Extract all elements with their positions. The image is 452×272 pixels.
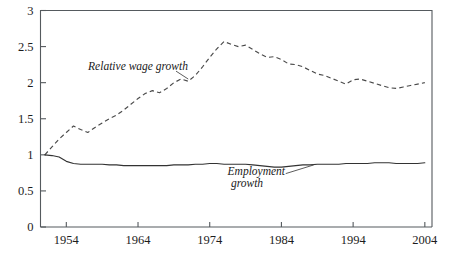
x-tick-label: 1954 <box>54 233 80 247</box>
series-annotation-label: growth <box>231 177 263 190</box>
x-tick-label: 1984 <box>269 233 295 247</box>
y-tick-label: 1 <box>27 148 33 162</box>
y-tick-label: 0 <box>27 220 33 234</box>
x-tick-label: 1964 <box>126 233 152 247</box>
series-annotation-label: Relative wage growth <box>87 60 188 73</box>
y-tick-label: 2 <box>27 76 33 90</box>
y-tick-label: 0.5 <box>18 184 34 198</box>
y-tick-label: 1.5 <box>18 112 34 126</box>
y-tick-label: 2.5 <box>18 40 34 54</box>
chart-background <box>0 0 452 272</box>
line-chart: 00.511.522.53 195419641974198419942004 R… <box>0 0 452 272</box>
y-tick-label: 3 <box>27 4 33 18</box>
x-tick-label: 1974 <box>197 233 223 247</box>
chart-container: 00.511.522.53 195419641974198419942004 R… <box>0 0 452 272</box>
x-tick-label: 1994 <box>341 233 367 247</box>
x-tick-label: 2004 <box>412 233 438 247</box>
